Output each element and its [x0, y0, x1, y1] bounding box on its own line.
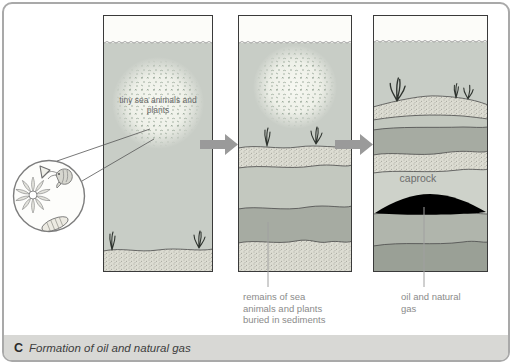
figure-caption-bar: C Formation of oil and natural gas [4, 335, 508, 360]
sky [238, 15, 352, 43]
stage-1-panel [103, 15, 213, 272]
caprock-label: caprock [384, 172, 452, 184]
figure-caption-letter: C [14, 341, 23, 355]
sediment-layer-bottom [238, 240, 352, 272]
plankton-cloud-label: tiny sea animals and plants [113, 95, 203, 115]
sky [373, 15, 488, 42]
figure-diagram: tiny sea animals and plants caprock rema… [0, 0, 512, 364]
sky [103, 15, 213, 43]
stage-3-panel [373, 15, 488, 272]
stage-2-panel [238, 15, 352, 272]
rock-layer-bottom [373, 241, 488, 272]
stage-2-drawing [238, 15, 352, 272]
stage-1-drawing [103, 15, 213, 272]
stage-3-drawing [373, 15, 488, 272]
figure-caption-text: Formation of oil and natural gas [29, 342, 191, 354]
oil-label: oil and natural gas [401, 291, 461, 314]
magnifier-inset [12, 159, 86, 233]
remains-label: remains of sea animals and plants buried… [243, 291, 331, 326]
seafloor-sediment [103, 249, 213, 272]
plankton-cloud [255, 47, 335, 127]
